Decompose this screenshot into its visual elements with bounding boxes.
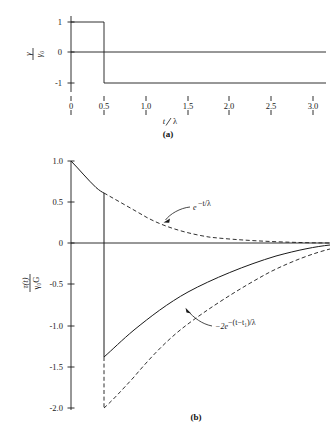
panel-a-xticklabel-2p0: 2.0 <box>224 101 235 111</box>
panel-a-xticklabel-3p0: 3.0 <box>308 101 319 111</box>
panel-a-xticklabel-1p0: 1.0 <box>141 101 152 111</box>
panel-a-xticklabel-2p5: 2.5 <box>266 101 277 111</box>
panel-a-ylabel-denominator: γ₀ <box>34 51 44 57</box>
panel-b-yticklabel-0: 0 <box>59 238 63 248</box>
annotation-exp-decay-leader-line <box>166 207 191 220</box>
annotation-neg-two-exp-text: −2e −(t−t₁)/λ <box>215 318 256 331</box>
figure-canvas: 1 0 -1 γ γ₀ <box>0 0 336 431</box>
annotation-neg-two-exp-arrowhead <box>186 308 192 314</box>
panel-b-ylabel-numerator: τ(t) <box>20 277 30 288</box>
panel-a-step-strain-curve <box>71 22 326 83</box>
panel-a-xticklabel-0: 0 <box>69 101 73 111</box>
panel-a-xlabel-numerator: t <box>163 116 166 126</box>
panel-b-yticklabel-0p5: 0.5 <box>52 197 63 207</box>
panel-a: 1 0 -1 γ γ₀ <box>23 16 327 139</box>
panel-a-xticklabel-0p5: 0.5 <box>99 101 110 111</box>
annotation-neg-two-exp-leader-line <box>188 311 213 327</box>
panel-a-label: (a) <box>163 129 174 139</box>
stress-relaxation-figure: 1 0 -1 γ γ₀ <box>0 0 336 431</box>
panel-a-yticklabel-0: 0 <box>58 47 62 57</box>
panel-a-yticklabel-1: 1 <box>58 17 62 27</box>
panel-a-xlabel-solidus <box>166 118 171 126</box>
annotation-exp-decay: e −t/λ <box>164 199 211 223</box>
panel-a-x-axis-label: t λ <box>163 116 178 126</box>
annotation-neg-two-exp-prefix: −2e <box>215 322 228 331</box>
panel-a-xticklabel-1p5: 1.5 <box>183 101 194 111</box>
panel-b-yticklabel-neg2p0: -2.0 <box>50 403 63 413</box>
panel-b-curve-solid-after-step <box>104 245 330 357</box>
panel-b-yticklabel-neg1p5: -1.5 <box>50 362 63 372</box>
annotation-exp-decay-text: e −t/λ <box>193 199 211 212</box>
panel-b: 1.0 0.5 0 -0.5 -1.0 -1.5 -2.0 τ(t) γ₀G <box>20 156 331 422</box>
annotation-exp-decay-base: e <box>193 203 197 212</box>
panel-a-y-axis-label: γ γ₀ <box>23 48 44 60</box>
panel-b-curve-exp-decay-dashed <box>104 193 330 243</box>
panel-a-xlabel-denominator: λ <box>173 116 178 126</box>
annotation-exp-decay-exponent: −t/λ <box>198 199 211 208</box>
panel-b-yticklabel-neg0p5: -0.5 <box>50 279 63 289</box>
panel-b-ylabel-denominator: γ₀G <box>31 277 41 291</box>
panel-a-ylabel-numerator: γ <box>23 52 33 56</box>
annotation-neg-two-exp: −2e −(t−t₁)/λ <box>186 308 256 331</box>
panel-a-yticklabel-neg1: -1 <box>55 78 62 88</box>
annotation-neg-two-exp-exponent: −(t−t₁)/λ <box>228 318 256 327</box>
panel-b-label: (b) <box>191 412 202 422</box>
panel-b-yticklabel-1p0: 1.0 <box>52 156 63 166</box>
panel-b-curve-solid-before-step <box>71 161 104 193</box>
panel-b-y-axis-label: τ(t) γ₀G <box>20 274 41 292</box>
panel-b-yticklabel-neg1p0: -1.0 <box>50 321 63 331</box>
